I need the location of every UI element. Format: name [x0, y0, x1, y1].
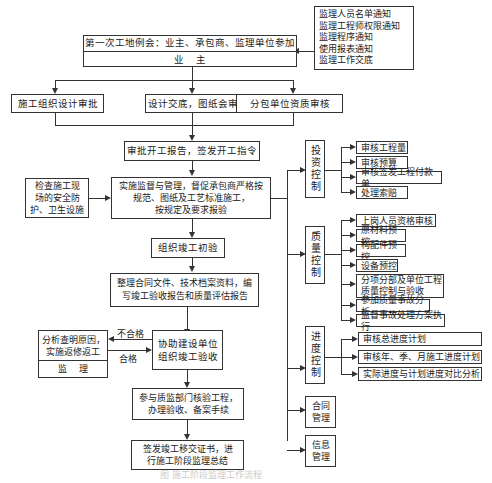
documents-line: 整理合同文件、技术档案资料，编 [117, 277, 252, 290]
design-disclosure-box: 设计交底，图纸会审 [145, 94, 240, 113]
safety-line: 护、卫生设施 [30, 204, 84, 216]
first-meeting-title: 第一次工地例会：业主、承包商、监理单位参加 [84, 35, 296, 52]
figure-caption: 图 施工阶段监理工作流程 [160, 468, 262, 481]
category-label: 投资控制 [309, 145, 322, 193]
supervisor-label: 监 理 [58, 361, 87, 377]
category-label: 信息管理 [310, 439, 332, 463]
category-label: 合同管理 [310, 400, 332, 424]
first-meeting-box: 第一次工地例会：业主、承包商、监理单位参加 业 主 [83, 35, 297, 67]
control-item: 审核工程量 [356, 141, 408, 154]
rework-line: 分析查明原因， [39, 334, 107, 346]
control-item: 审核年、季、月施工进度计划 [358, 350, 482, 364]
control-item: 处理索赔 [356, 186, 408, 199]
control-item: 审核签发工程付款单 [356, 171, 442, 184]
rework-line: 实施返修返工 [39, 346, 107, 358]
fail-label: 不合格 [117, 327, 144, 340]
control-item: 设备预控 [356, 259, 398, 272]
handover-line: 签发竣工移交证书，进 [143, 443, 233, 455]
supervision-line: 规范、图纸及工艺标准施工， [133, 192, 250, 204]
quality-supervision-box: 参与质监部门核验工程， 办理验收、备案手续 [132, 388, 244, 420]
category-label: 质量控制 [309, 231, 322, 279]
category-label: 进度控制 [309, 331, 322, 379]
arrow-icon [146, 347, 152, 353]
contract-management-box: 合同管理 [305, 396, 336, 428]
notice-item: 监理人员名单通知 [319, 9, 391, 21]
investment-control-box: 投资控制 [305, 140, 325, 198]
supervision-box: 实施监督与管理，督促承包商严格按 规范、图纸及工艺标准施工， 按规定及要求报验 [111, 177, 271, 219]
arrow-icon [189, 170, 195, 176]
assist-line: 组织竣工验收 [158, 350, 218, 363]
control-item: 构配件预控 [356, 244, 406, 257]
notice-item: 使用报表通知 [319, 44, 373, 56]
handover-line: 行施工阶段监理总结 [147, 455, 228, 467]
assist-acceptance-box: 协助建设单位 组织竣工验收 [152, 330, 223, 370]
subcontract-review-box: 分包单位资质审核 [236, 94, 343, 113]
notice-item: 监理工作交底 [319, 55, 373, 67]
safety-check-box: 检查施工现 场的安全防 护、卫生设施 [25, 178, 89, 218]
qs-line: 参与质监部门核验工程， [139, 392, 238, 404]
arrow-icon [189, 266, 195, 272]
control-item: 实际进度与计划进度对比分析 [358, 367, 482, 381]
initial-acceptance-box: 组织竣工初验 [151, 238, 225, 258]
qs-line: 办理验收、备案手续 [148, 404, 229, 416]
start-approval-box: 审批开工报告，签发开工指令 [124, 141, 260, 161]
owner-label: 业 主 [174, 52, 206, 67]
design-review-box: 施工组织设计审批 [11, 94, 104, 113]
control-item: 监督事故处理方案执行 [356, 314, 445, 327]
quality-control-box: 质量控制 [305, 226, 325, 284]
arrow-icon [108, 336, 114, 342]
schedule-control-box: 进度控制 [305, 326, 325, 384]
safety-line: 场的安全防 [35, 192, 80, 204]
documents-line: 写竣工验收报告和质量评估报告 [122, 290, 248, 303]
assist-line: 协助建设单位 [158, 337, 218, 350]
supervision-line: 按规定及要求报验 [155, 204, 227, 216]
rework-box: 分析查明原因， 实施返修返工 监 理 [38, 330, 108, 378]
notice-item: 监理工程师权限通知 [319, 21, 400, 33]
pass-label: 合格 [119, 352, 137, 365]
information-management-box: 信息管理 [305, 435, 336, 467]
documents-box: 整理合同文件、技术档案资料，编 写竣工验收报告和质量评估报告 [110, 273, 259, 307]
handover-box: 签发竣工移交证书，进 行施工阶段监理总结 [131, 440, 244, 470]
notices-box: 监理人员名单通知 监理工程师权限通知 监理程序通知 使用报表通知 监理工作交底 [314, 6, 414, 70]
control-item: 审核总进度计划 [358, 332, 482, 346]
safety-line: 检查施工现 [35, 180, 80, 192]
supervision-line: 实施监督与管理，督促承包商严格按 [119, 180, 263, 192]
notice-item: 监理程序通知 [319, 32, 373, 44]
